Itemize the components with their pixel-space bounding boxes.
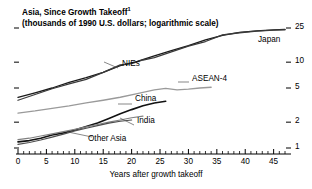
x-axis-tick-label-10: 10: [63, 157, 87, 166]
x-axis-label: Years after growth takeoff: [0, 170, 312, 179]
x-axis-tick-label-40: 40: [233, 157, 257, 166]
y-axis-tick-label-10: 10: [295, 56, 304, 65]
x-axis-tick-label-20: 20: [120, 157, 144, 166]
series-label-japan: Japan: [258, 35, 280, 44]
x-axis-tick-label-45: 45: [262, 157, 286, 166]
x-axis-tick-label-25: 25: [148, 157, 172, 166]
series-label-asean-4: ASEAN-4: [192, 74, 227, 83]
x-axis-tick-label-15: 15: [91, 157, 115, 166]
series-label-china: China: [135, 94, 156, 103]
series-label-other-asia: Other Asia: [88, 134, 126, 143]
y-axis-tick-label-5: 5: [295, 82, 300, 91]
chart-container: Asia, Since Growth Takeoff1 (thousands o…: [0, 0, 312, 189]
leader-line-nies: [104, 62, 118, 68]
x-axis-tick-label-30: 30: [176, 157, 200, 166]
x-axis-tick-label-5: 5: [34, 157, 58, 166]
series-label-nies: NIEs: [122, 59, 140, 68]
x-axis-tick-label-0: 0: [6, 157, 30, 166]
chart-series-paths: [18, 30, 285, 145]
y-axis-tick-label-2: 2: [295, 116, 300, 125]
y-axis-tick-label-1: 1: [295, 142, 300, 151]
y-axis-tick-label-25: 25: [295, 22, 304, 31]
series-label-india: India: [137, 116, 155, 125]
series-line-nies: [18, 30, 285, 101]
x-axis-tick-label-35: 35: [205, 157, 229, 166]
